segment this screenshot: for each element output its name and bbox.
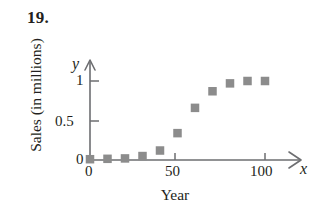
data-point [243,77,252,86]
data-point [226,79,235,88]
x-axis-ticks [175,153,265,160]
y-axis-ticks [90,81,99,121]
data-point [191,104,200,113]
plot-area [0,0,324,222]
data-point [103,155,112,164]
figure-container: 19. Sales (in millions) Year y x 1 0.5 0… [0,0,324,222]
data-point [261,77,270,86]
data-point [138,152,147,161]
data-point [156,146,165,155]
data-point [173,129,182,138]
y-axis-group [85,60,95,160]
data-point [121,154,130,163]
data-point-group [86,77,270,164]
x-axis-group [88,152,301,168]
data-point [208,87,217,96]
data-point [86,155,95,164]
